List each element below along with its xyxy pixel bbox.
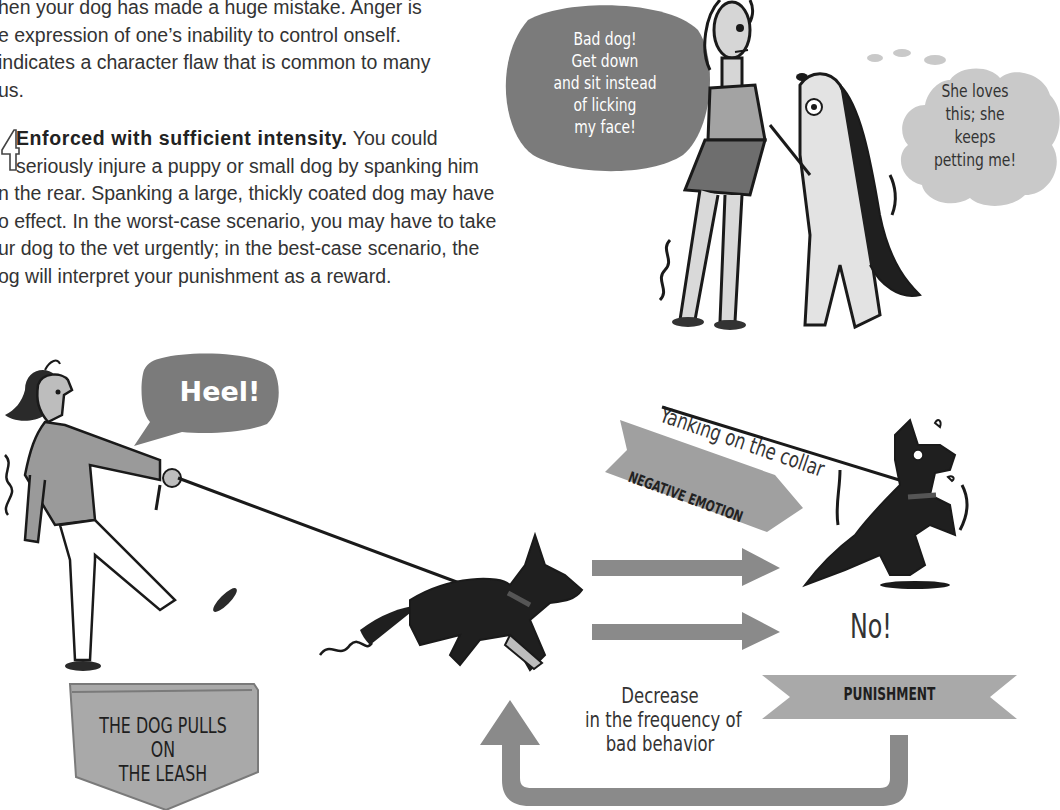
dog-exclamation: No!	[850, 606, 892, 646]
thought-line: this; she	[918, 103, 1033, 126]
start-label-line: THE DOG PULLS ON	[95, 714, 232, 762]
speech-bubble-bad-dog: Bad dog! Get down and sit instead of lic…	[535, 28, 675, 138]
result-caption-line: bad behavior	[585, 732, 735, 756]
thought-line: keeps	[918, 126, 1033, 149]
paragraph-line: e expression of one’s inability to contr…	[0, 22, 430, 50]
yanked-dog-illustration	[800, 415, 990, 595]
paragraph-line: n the rear. Spanking a large, thickly co…	[0, 180, 496, 208]
bubble-line: Get down	[548, 50, 663, 72]
paragraph-line: o effect. In the worst-case scenario, yo…	[0, 208, 496, 236]
paragraph-line: hen your dog has made a huge mistake. An…	[0, 0, 430, 22]
bubble-line: of licking	[548, 94, 663, 116]
bubble-line: and sit instead	[548, 72, 663, 94]
number-four-icon	[0, 128, 20, 172]
numbered-point: Enforced with sufficient intensity. You …	[0, 125, 496, 290]
start-label: THE DOG PULLS ON THE LEASH	[68, 714, 258, 786]
pulling-dog-illustration	[310, 535, 600, 685]
result-caption-line: in the frequency of	[585, 708, 735, 732]
paragraph-line: us.	[0, 77, 430, 105]
body-text-block: hen your dog has made a huge mistake. An…	[0, 0, 430, 104]
thought-line: petting me!	[918, 149, 1033, 172]
thought-line: She loves	[918, 80, 1033, 103]
paragraph-line: seriously injure a puppy or small dog by…	[0, 153, 496, 181]
point-text: You could	[348, 127, 438, 149]
start-label-line: THE LEASH	[95, 762, 232, 786]
paragraph-line: ur dog to the vet urgently; in the best-…	[0, 235, 496, 263]
paragraph-line: og will interpret your punishment as a r…	[0, 263, 496, 291]
bubble-line: Bad dog!	[548, 28, 663, 50]
paragraph-line: indicates a character flaw that is commo…	[0, 49, 430, 77]
point-heading: Enforced with sufficient intensity.	[16, 127, 348, 149]
thought-bubble-dog: She loves this; she keeps petting me!	[905, 80, 1045, 172]
result-caption-line: Decrease	[585, 684, 735, 708]
bubble-line: my face!	[548, 116, 663, 138]
arrow-right-icon	[592, 548, 782, 588]
result-caption: Decrease in the frequency of bad behavio…	[560, 684, 760, 756]
arrow-right-icon	[592, 612, 782, 652]
